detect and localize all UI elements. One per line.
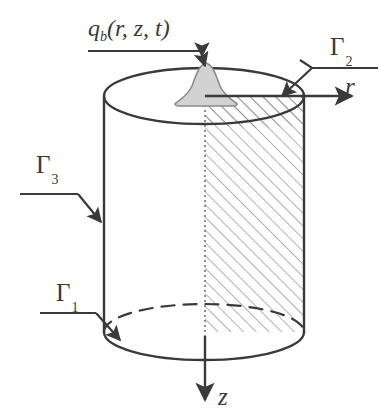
gamma1-label: Γ1 [56,280,77,310]
gamma3-subscript: 3 [51,172,58,187]
source-term-subscript: b [100,29,107,44]
source-leader-line [88,51,205,66]
source-term-arguments: (r, z, t) [107,15,170,41]
hatched-cross-section [205,96,304,332]
figure-canvas: qb(r, z, t) Γ2 Γ3 Γ1 r z [0,0,381,420]
gamma1-symbol: Γ [56,279,70,306]
gamma2-symbol: Γ [330,33,344,60]
gamma2-leader-line [282,60,378,96]
gamma3-label: Γ3 [36,152,57,182]
r-axis-label: r [345,74,355,99]
cylinder-diagram-svg [0,0,381,420]
gamma3-leader-line [20,194,101,222]
gamma2-label: Γ2 [330,34,351,64]
source-term-base: q [88,15,100,41]
gamma2-subscript: 2 [345,54,352,69]
gamma1-leader-line [40,313,120,340]
source-term-label: qb(r, z, t) [88,16,170,40]
gamma1-subscript: 1 [71,300,78,315]
gamma3-symbol: Γ [36,151,50,178]
z-axis-label: z [218,384,228,409]
